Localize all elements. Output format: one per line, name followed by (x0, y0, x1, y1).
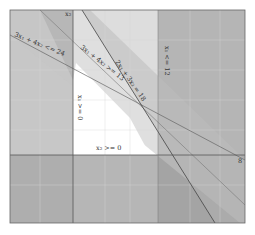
label-y-axis: x₂ (65, 10, 72, 18)
lp-feasible-region-chart: 3x₁ + 4x₂ <= 24 3x₁ + 4x₂ >= 13 2x₁ + 3x… (0, 0, 255, 235)
label-x1-nonneg: x₁ >= 0 (76, 95, 84, 120)
label-x-tick-end: 8 (238, 157, 242, 165)
label-x1-upper-bound: x₁ <= 12 (163, 46, 171, 76)
label-x2-nonneg: x₂ >= 0 (96, 144, 121, 152)
